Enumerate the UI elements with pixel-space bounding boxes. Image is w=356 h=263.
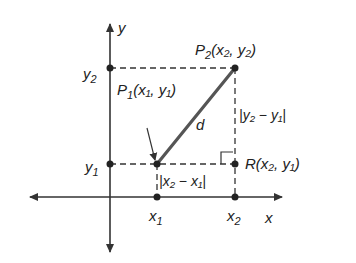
x-axis-label: x xyxy=(264,209,273,226)
distance-diagram: y x y2 y1 x1 x2 P2(x₂, y₂) P1(x₁, y₁) R(… xyxy=(0,0,356,263)
y-axis-label: y xyxy=(117,19,127,36)
right-angle-mark xyxy=(221,152,233,164)
x2-tick-label: x2 xyxy=(226,207,241,227)
horizontal-distance-label: |x₂ − x₁| xyxy=(159,173,206,189)
pointer-arrow-icon xyxy=(147,128,155,160)
segment-d-label: d xyxy=(196,116,205,133)
p1-label: P1(x₁, y₁) xyxy=(117,81,176,101)
p2-label: P2(x₂, y₂) xyxy=(195,41,256,61)
x1-tick-label: x1 xyxy=(148,207,163,227)
y2-tick-label: y2 xyxy=(82,65,97,85)
r-label: R(x₂, y₁) xyxy=(245,155,300,172)
y1-tick-label: y1 xyxy=(84,158,99,178)
vertical-distance-label: |y₂ − y₁| xyxy=(239,107,286,123)
